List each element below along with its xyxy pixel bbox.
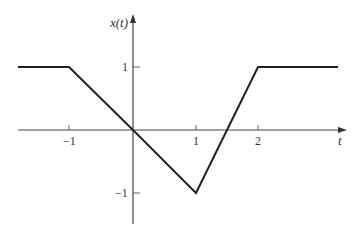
- x-tick-label-1: 1: [193, 134, 199, 148]
- y-axis-label-arg: (t): [116, 15, 128, 30]
- y-tick-label-1: 1: [122, 60, 128, 74]
- x-axis-label: t: [338, 133, 342, 148]
- y-axis-label: x(t): [109, 15, 128, 30]
- y-tick-label-neg1: −1: [115, 186, 128, 200]
- signal-plot: −1 1 2 1 −1 x(t) t: [0, 0, 359, 239]
- x-tick-label-2: 2: [255, 134, 261, 148]
- y-axis-arrow-icon: [130, 14, 136, 23]
- x-tick-label-neg1: −1: [63, 134, 76, 148]
